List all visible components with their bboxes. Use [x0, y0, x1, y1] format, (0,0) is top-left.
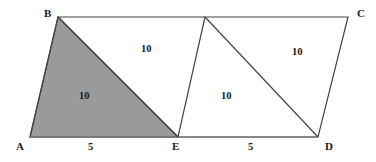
length-label-ae: 5 — [88, 142, 93, 153]
length-label-ed: 5 — [248, 142, 253, 153]
segment-f-d — [205, 17, 318, 137]
area-label-abe-shaded: 10 — [79, 91, 90, 102]
vertex-label-d: D — [325, 141, 333, 152]
vertex-label-b: B — [44, 8, 51, 19]
vertex-label-e: E — [172, 141, 179, 152]
area-label-fed: 10 — [221, 91, 232, 102]
geometry-canvas — [0, 0, 376, 162]
shaded-triangle-abe — [30, 17, 178, 137]
geometry-figure: B C A E D 10 10 10 10 5 5 — [0, 0, 376, 162]
vertex-label-a: A — [16, 141, 24, 152]
segment-f-e — [178, 17, 205, 137]
area-label-bfe: 10 — [141, 44, 152, 55]
vertex-label-c: C — [357, 8, 365, 19]
area-label-fdc: 10 — [292, 47, 303, 58]
